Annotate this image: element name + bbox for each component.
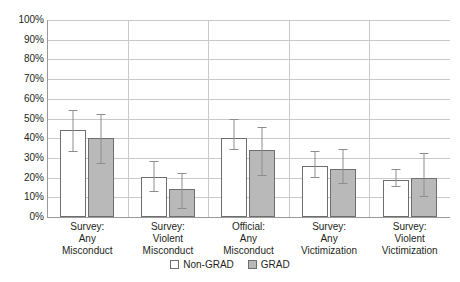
category-label: Survey:AnyVictimization	[289, 221, 370, 258]
category-label-line: Victimization	[369, 245, 450, 257]
legend-item-grad[interactable]: GRAD	[248, 259, 290, 270]
error-bar-cap-lower	[230, 149, 239, 150]
bar-pair	[208, 20, 289, 217]
bar-slot	[141, 20, 167, 217]
error-bar-cap-upper	[391, 169, 400, 170]
y-axis-tick-labels: 100%90%80%70%60%50%40%30%20%10%0%	[0, 20, 44, 217]
y-axis-tick-label: 100%	[0, 15, 44, 25]
category-label-line: Official:	[208, 221, 289, 233]
legend-swatch-icon	[170, 260, 179, 269]
legend-label: GRAD	[261, 259, 290, 270]
y-axis-tick-label: 40%	[0, 133, 44, 143]
error-bar-cap-lower	[419, 196, 428, 197]
error-bar	[315, 152, 316, 178]
bar-group	[208, 20, 289, 217]
error-bar-cap-upper	[419, 153, 428, 154]
error-bar	[73, 111, 74, 152]
bar-pair	[369, 20, 450, 217]
bar-group	[47, 20, 128, 217]
bar-slot	[383, 20, 409, 217]
bar-group	[289, 20, 370, 217]
category-label-line: Survey:	[289, 221, 370, 233]
category-label: Survey:ViolentMisconduct	[128, 221, 209, 258]
category-label-line: Misconduct	[47, 245, 128, 257]
error-bar	[101, 115, 102, 164]
error-bar	[423, 154, 424, 197]
error-bar-cap-upper	[311, 151, 320, 152]
y-axis-tick-label: 90%	[0, 35, 44, 45]
bar-slot	[330, 20, 356, 217]
category-label-line: Survey:	[369, 221, 450, 233]
bar-slot	[249, 20, 275, 217]
error-bar-cap-lower	[97, 163, 106, 164]
error-bar-cap-upper	[97, 114, 106, 115]
legend-label: Non-GRAD	[183, 259, 234, 270]
y-axis-tick-label: 70%	[0, 74, 44, 84]
error-bar	[153, 162, 154, 193]
error-bar	[181, 174, 182, 209]
error-bar-cap-upper	[258, 127, 267, 128]
y-axis-tick-label: 0%	[0, 212, 44, 222]
bar-slot	[60, 20, 86, 217]
error-bar-cap-lower	[149, 191, 158, 192]
category-label-line: Survey:	[47, 221, 128, 233]
category-label-line: Any	[208, 233, 289, 245]
y-axis-tick-label: 30%	[0, 153, 44, 163]
bar-pair	[289, 20, 370, 217]
bar-pair	[47, 20, 128, 217]
error-bar-cap-lower	[339, 183, 348, 184]
category-label-line: Any	[47, 233, 128, 245]
error-bar-cap-lower	[177, 208, 186, 209]
bar-slot	[221, 20, 247, 217]
y-axis-tick-label: 80%	[0, 54, 44, 64]
error-bar-cap-lower	[258, 175, 267, 176]
y-axis-tick-label: 60%	[0, 94, 44, 104]
category-label: Survey:AnyMisconduct	[47, 221, 128, 258]
error-bar-cap-lower	[311, 177, 320, 178]
bar-slot	[411, 20, 437, 217]
x-axis-category-labels: Survey:AnyMisconductSurvey:ViolentMiscon…	[47, 221, 450, 258]
bar-slot	[302, 20, 328, 217]
legend-swatch-icon	[248, 260, 257, 269]
error-bar-cap-upper	[69, 110, 78, 111]
error-bar-cap-upper	[177, 173, 186, 174]
bar-chart: 100%90%80%70%60%50%40%30%20%10%0% Survey…	[0, 0, 460, 282]
category-label-line: Victimization	[289, 245, 370, 257]
error-bar-cap-lower	[69, 151, 78, 152]
bar-pair	[128, 20, 209, 217]
category-label-line: Any	[289, 233, 370, 245]
category-label: Survey:ViolentVictimization	[369, 221, 450, 258]
category-label-line: Misconduct	[128, 245, 209, 257]
legend-item-nongrad[interactable]: Non-GRAD	[170, 259, 234, 270]
y-axis-tick-label: 50%	[0, 114, 44, 124]
error-bar	[262, 128, 263, 175]
category-label-line: Survey:	[128, 221, 209, 233]
bar-group	[369, 20, 450, 217]
category-label-line: Violent	[369, 233, 450, 245]
error-bar-cap-upper	[230, 119, 239, 120]
error-bar	[234, 120, 235, 150]
bar-groups	[47, 20, 450, 217]
category-label: Official:AnyMisconduct	[208, 221, 289, 258]
error-bar-cap-upper	[149, 161, 158, 162]
y-axis-tick-label: 10%	[0, 192, 44, 202]
error-bar-cap-lower	[391, 186, 400, 187]
bar-group	[128, 20, 209, 217]
x-axis-baseline	[47, 217, 450, 218]
category-label-line: Violent	[128, 233, 209, 245]
y-axis-tick-label: 20%	[0, 173, 44, 183]
category-label-line: Misconduct	[208, 245, 289, 257]
error-bar-cap-upper	[339, 149, 348, 150]
chart-legend: Non-GRADGRAD	[0, 259, 460, 270]
error-bar	[343, 150, 344, 183]
bar-slot	[88, 20, 114, 217]
error-bar	[395, 170, 396, 188]
bar-slot	[169, 20, 195, 217]
